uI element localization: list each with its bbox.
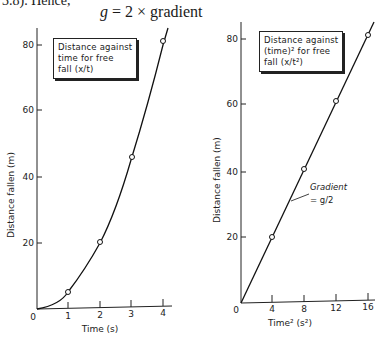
left-chart-title-box: Distance against time for free fall (x/t… (53, 38, 137, 79)
left-xtick-2: 2 (97, 310, 103, 320)
right-point-16 (366, 33, 371, 38)
left-origin-label: 0 (30, 312, 36, 322)
gradient-leader-line (291, 194, 309, 201)
left-ytick-20: 20 (23, 238, 35, 248)
right-xtick-16: 16 (362, 302, 374, 312)
right-ytick-20: 20 (227, 232, 239, 242)
left-x-axis (37, 306, 172, 309)
left-point-1 (66, 290, 71, 295)
right-origin-label: 0 (233, 305, 239, 315)
right-chart-title-box: Distance against (time)² for free fall (… (259, 31, 343, 72)
right-point-8 (302, 167, 307, 172)
left-ytick-80: 80 (23, 40, 35, 50)
left-xtick-3: 3 (128, 309, 134, 319)
left-xtick-1: 1 (65, 311, 71, 321)
right-point-4 (270, 235, 275, 240)
right-ytick-60: 60 (227, 99, 239, 109)
right-y-axis-label: Distance fallen (m) (212, 137, 222, 223)
gradient-annotation-label: Gradient (310, 182, 347, 192)
left-y-axis-label: Distance fallen (m) (6, 152, 16, 238)
left-ytick-60: 60 (23, 105, 35, 115)
left-xtick-4: 4 (160, 308, 166, 318)
right-xtick-8: 8 (301, 304, 307, 314)
left-point-2 (98, 240, 103, 245)
right-ytick-80: 80 (227, 34, 239, 44)
right-ytick-40: 40 (227, 167, 239, 177)
right-x-axis-label: Time² (s²) (267, 318, 312, 328)
left-point-3 (130, 155, 135, 160)
left-ytick-40: 40 (23, 172, 35, 182)
right-point-12 (334, 99, 339, 104)
left-x-axis-label: Time (s) (81, 324, 119, 334)
gradient-annotation-value: = g/2 (310, 195, 334, 205)
right-x-axis (241, 300, 375, 303)
right-xtick-12: 12 (330, 303, 341, 313)
right-xtick-4: 4 (269, 304, 275, 314)
left-point-4 (161, 39, 166, 44)
